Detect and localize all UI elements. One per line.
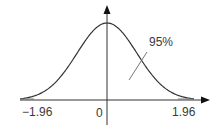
tick-label-right: 1.96 <box>172 105 196 119</box>
area-leader-line <box>129 52 147 80</box>
tick-label-center: 0 <box>96 106 103 120</box>
x-axis-arrow-icon <box>201 97 210 104</box>
area-label: 95% <box>149 35 173 49</box>
normal-distribution-diagram: 95% −1.96 0 1.96 <box>0 0 222 132</box>
y-axis-arrow-icon <box>104 5 111 14</box>
tick-label-left: −1.96 <box>22 105 53 119</box>
